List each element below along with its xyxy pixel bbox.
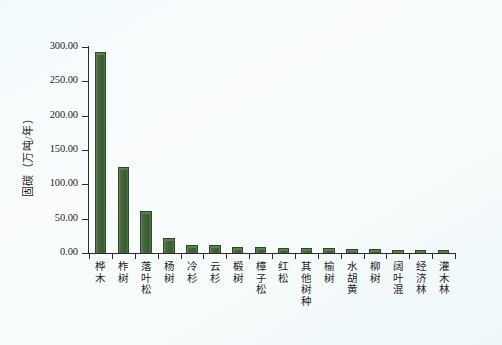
bar — [278, 248, 290, 253]
x-tick-label: 红松 — [276, 261, 290, 284]
x-tick-mark — [89, 254, 90, 259]
x-tick-mark — [455, 254, 456, 259]
x-tick-label: 椴树 — [231, 261, 245, 284]
y-tick-label: 250.00 — [0, 75, 78, 87]
x-tick-mark — [318, 254, 319, 259]
x-tick-label: 其他树种 — [299, 261, 313, 307]
x-tick-mark — [158, 254, 159, 259]
x-tick-mark — [409, 254, 410, 259]
x-tick-label: 水胡黄 — [345, 261, 359, 296]
y-tick-label-text: 0.00 — [0, 247, 78, 258]
x-tick-label: 云杉 — [208, 261, 222, 284]
bar — [118, 167, 130, 253]
x-tick-mark — [341, 254, 342, 259]
y-tick-label-text: 50.00 — [0, 213, 78, 224]
bar — [438, 250, 450, 253]
x-tick-label: 柳树 — [368, 261, 382, 284]
bar — [95, 52, 107, 253]
bar — [209, 245, 221, 253]
x-tick-mark — [135, 254, 136, 259]
y-tick-label-text: 150.00 — [0, 144, 78, 155]
x-tick-mark — [203, 254, 204, 259]
y-tick-label-text: 250.00 — [0, 75, 78, 86]
x-tick-mark — [386, 254, 387, 259]
x-tick-label: 榆树 — [322, 261, 336, 284]
x-tick-mark — [272, 254, 273, 259]
x-tick-label: 落叶松 — [139, 261, 153, 296]
x-tick-mark — [112, 254, 113, 259]
y-tick-label-text: 100.00 — [0, 178, 78, 189]
x-tick-label: 杨树 — [162, 261, 176, 284]
y-tick-label-text: 200.00 — [0, 110, 78, 121]
y-tick-label-text: 300.00 — [0, 41, 78, 52]
y-tick-label: 200.00 — [0, 110, 78, 122]
bar — [369, 249, 381, 253]
x-tick-mark — [295, 254, 296, 259]
bar — [255, 247, 267, 253]
bar — [346, 249, 358, 253]
y-tick-label: 150.00 — [0, 144, 78, 156]
y-tick-label: 50.00 — [0, 213, 78, 225]
x-tick-label: 经济林 — [414, 261, 428, 296]
x-tick-label: 阔叶混 — [391, 261, 405, 296]
bar — [232, 247, 244, 253]
y-tick-label: 100.00 — [0, 178, 78, 190]
bar — [186, 245, 198, 253]
x-tick-mark — [181, 254, 182, 259]
y-tick-label: 0.00 — [0, 247, 78, 259]
bar — [140, 211, 152, 253]
x-tick-mark — [226, 254, 227, 259]
x-tick-label: 灌木林 — [437, 261, 451, 296]
bar — [415, 250, 427, 253]
x-tick-label: 冷杉 — [185, 261, 199, 284]
bar — [163, 238, 175, 253]
x-tick-label: 柞树 — [116, 261, 130, 284]
bar — [301, 248, 313, 253]
bar — [323, 248, 335, 253]
x-tick-mark — [432, 254, 433, 259]
x-tick-mark — [249, 254, 250, 259]
x-tick-mark — [364, 254, 365, 259]
chart-figure: 固碳（万吨/年） 0.0050.00100.00150.00200.00250.… — [0, 0, 502, 345]
bar — [392, 250, 404, 253]
x-tick-label: 桦木 — [93, 261, 107, 284]
plot-area — [89, 47, 455, 253]
x-tick-label: 樟子松 — [254, 261, 268, 296]
y-tick-label: 300.00 — [0, 41, 78, 53]
